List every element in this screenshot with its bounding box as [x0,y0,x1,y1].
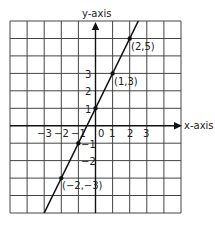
y-axis-label: y-axis [82,8,111,19]
x-tick: 1 [109,128,115,139]
x-tick: −2 [54,128,69,139]
x-tick: 2 [127,128,133,139]
x-tick: 3 [143,128,149,139]
point-label-1-3: (1,3) [114,76,138,87]
x-tick-labels: −3 −2 −1 0 1 2 3 [37,128,149,139]
x-axis-label: x-axis [184,120,214,131]
y-tick: 3 [85,69,91,80]
x-tick: 0 [98,128,104,139]
y-tick: −2 [81,156,96,167]
point-0-1 [93,106,97,110]
point-label-m2-m3: (−2,−3) [62,180,103,191]
point-label-2-5: (2,5) [131,41,155,52]
y-tick-labels: 3 2 1 −1 −2 [81,69,96,167]
x-tick: −3 [37,128,52,139]
y-tick: −1 [81,139,96,150]
y-tick: 1 [85,104,91,115]
point-1-3 [110,71,114,75]
y-tick: 2 [85,86,91,97]
coordinate-plane: y-axis x-axis −3 −2 −1 0 1 2 3 3 2 1 −1 … [0,0,215,225]
point-m1-m1 [76,141,80,145]
y-axis-arrow-icon [92,22,99,30]
